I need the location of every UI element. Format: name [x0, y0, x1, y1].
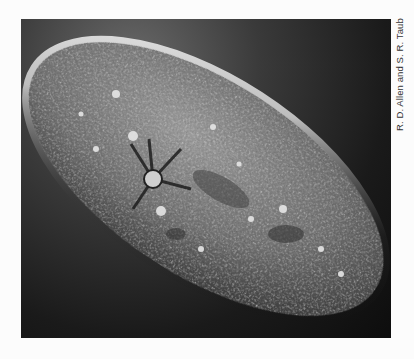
- photo-credit: R. D. Allen and S. R. Taub: [394, 18, 405, 131]
- paramecium-illustration: [21, 19, 391, 338]
- micrograph-photo: [21, 19, 391, 338]
